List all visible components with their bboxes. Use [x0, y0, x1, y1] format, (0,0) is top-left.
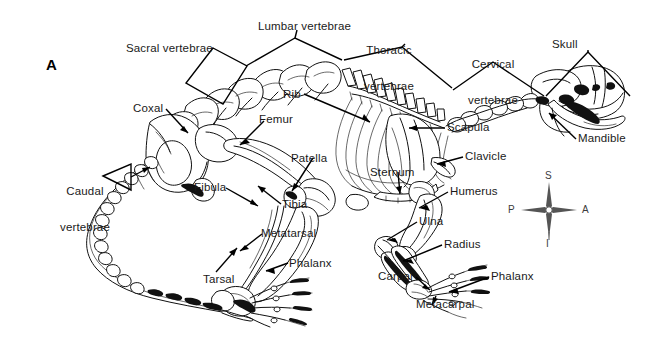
label-caudal-vertebrae-line2: vertebrae	[56, 221, 114, 233]
label-sternum: Sternum	[370, 166, 415, 178]
compass-label-inferior: I	[546, 238, 549, 249]
label-sacral-vertebrae: Sacral vertebrae	[126, 42, 213, 54]
label-radius: Radius	[444, 238, 481, 250]
label-caudal-vertebrae: Caudal vertebrae	[56, 161, 114, 257]
compass-label-posterior: P	[508, 204, 515, 215]
label-patella: Patella	[291, 152, 327, 164]
label-skull: Skull	[552, 38, 578, 50]
femur-group	[195, 125, 335, 217]
label-cervical-vertebrae-line2: vertebrae	[462, 94, 524, 106]
label-ulna: Ulna	[419, 215, 443, 227]
label-thoracic-vertebrae-line2: vertebrae	[358, 80, 420, 92]
label-clavicle: Clavicle	[465, 150, 506, 162]
panel-letter: A	[46, 56, 57, 73]
label-tarsal: Tarsal	[203, 273, 235, 285]
label-carpal: Carpal	[378, 270, 413, 282]
compass-label-anterior: A	[582, 204, 589, 215]
orientation-compass-graphic	[521, 182, 577, 240]
label-thoracic-vertebrae: Thoracic vertebrae	[358, 20, 420, 116]
label-phalanx-forelimb: Phalanx	[491, 270, 534, 282]
label-fibula: Fibula	[194, 181, 226, 193]
label-cervical-vertebrae: Cervical vertebrae	[462, 34, 524, 130]
label-coxal: Coxal	[133, 102, 163, 114]
label-caudal-vertebrae-line1: Caudal	[56, 185, 114, 197]
label-rib: Rib	[283, 88, 301, 100]
label-femur: Femur	[259, 113, 293, 125]
label-thoracic-vertebrae-line1: Thoracic	[358, 44, 420, 56]
label-phalanx-hindlimb: Phalanx	[289, 257, 332, 269]
label-metatarsal: Metatarsal	[261, 227, 316, 239]
label-cervical-vertebrae-line1: Cervical	[462, 58, 524, 70]
label-mandible: Mandible	[578, 132, 626, 144]
compass-label-superior: S	[545, 170, 552, 181]
label-lumbar-vertebrae: Lumbar vertebrae	[258, 20, 351, 32]
label-scapula: Scapula	[447, 121, 490, 133]
label-metacarpal: Metacarpal	[416, 298, 474, 310]
label-tibia: Tibia	[282, 198, 307, 210]
skeleton-figure: A Sacral vertebrae Lumbar vertebrae Thor…	[0, 0, 652, 343]
label-humerus: Humerus	[450, 185, 498, 197]
